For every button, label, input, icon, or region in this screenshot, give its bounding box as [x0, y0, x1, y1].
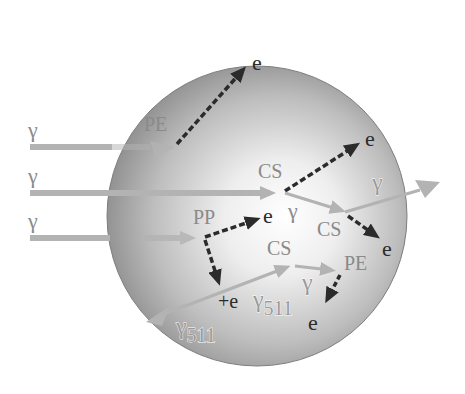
incoming-gamma-label-3: γ	[27, 208, 38, 233]
interaction-diagram: γ γ γ PE e CS e γ γ CS e PP e +e γ511 γ5…	[0, 0, 465, 394]
cs-label-3: CS	[267, 237, 291, 259]
electron-label-top: e	[252, 50, 262, 75]
incoming-gamma-label-2: γ	[27, 163, 38, 188]
electron-label-pp: e	[263, 203, 273, 228]
incoming-gamma-label-1: γ	[27, 117, 38, 142]
electron-label-pe-bottom: e	[308, 310, 318, 335]
cs-label-2: CS	[317, 218, 341, 240]
electron-label-cs1: e	[365, 126, 375, 151]
gamma-scatter-label: γ	[287, 198, 298, 223]
cs-label-1: CS	[258, 160, 282, 182]
pp-label: PP	[193, 206, 215, 228]
gamma-out-label: γ	[371, 169, 383, 195]
electron-label-cs2: e	[382, 236, 392, 261]
gamma-label-3: γ	[301, 269, 313, 295]
pe-label-bottom: PE	[344, 252, 367, 274]
pe-label-top: PE	[144, 113, 167, 135]
